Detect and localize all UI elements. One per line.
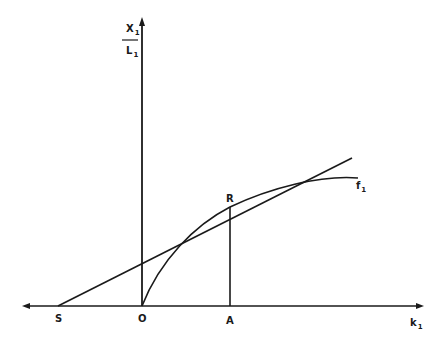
point-label-O: O (138, 314, 147, 324)
curve-label: f1 (356, 181, 365, 191)
diagram-canvas (0, 0, 436, 348)
y-denominator-sub: 1 (133, 51, 138, 59)
curve-label-text: f (356, 180, 360, 191)
x-label-sub: 1 (418, 323, 423, 331)
y-numerator-text: X (126, 23, 134, 34)
point-label-R: R (226, 194, 234, 204)
tangent-line (58, 158, 352, 306)
x-label-text: k (410, 317, 417, 328)
y-numerator-sub: 1 (135, 29, 140, 37)
point-label-A: A (226, 316, 234, 326)
y-denominator-text: L (126, 45, 132, 56)
x-axis-left-arrow-icon (22, 303, 30, 309)
y-axis-label-numerator: X1 (126, 24, 139, 34)
y-axis-label-denominator: L1 (126, 46, 137, 56)
point-label-S: S (55, 314, 62, 324)
x-axis-label: k1 (410, 318, 422, 328)
x-axis-right-arrow-icon (416, 303, 424, 309)
y-axis-arrow-icon (139, 17, 145, 26)
production-curve (142, 178, 358, 306)
curve-label-sub: 1 (361, 186, 366, 194)
